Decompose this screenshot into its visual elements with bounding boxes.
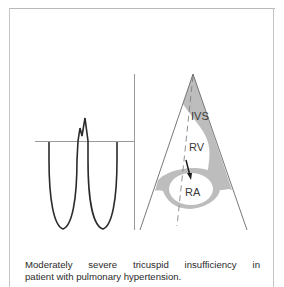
doppler-tracing	[35, 74, 135, 230]
caption-line-1: Moderately severe tricuspid insufficienc…	[25, 259, 260, 271]
figure-caption: Moderately severe tricuspid insufficienc…	[25, 259, 260, 283]
regurgitant-jet-waveform	[49, 118, 117, 229]
label-rv: RV	[189, 141, 205, 153]
label-ra: RA	[185, 186, 201, 198]
caption-line-2: patient with pulmonary hypertension.	[25, 271, 260, 283]
label-ivs: IVS	[191, 110, 209, 122]
echo-sector: IVS RV RA	[140, 74, 247, 230]
echo-doppler-figure: IVS RV RA	[0, 0, 284, 287]
